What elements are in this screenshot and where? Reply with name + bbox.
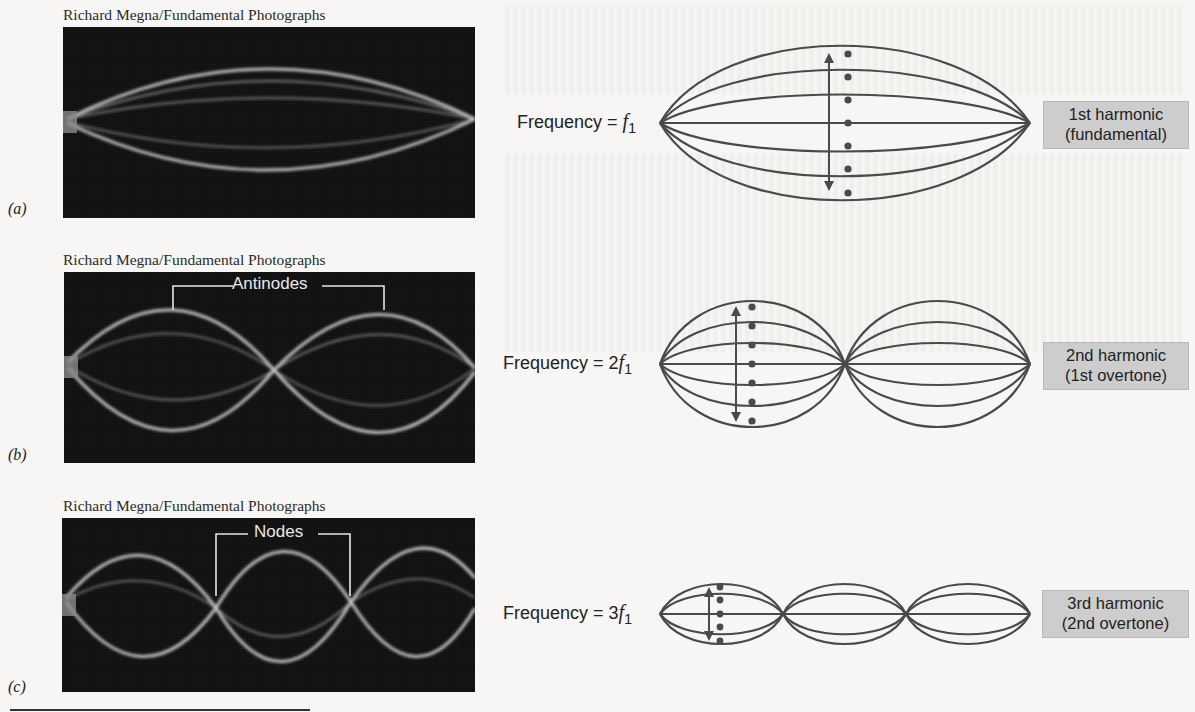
diagram-third-harmonic (660, 584, 1030, 644)
standing-wave-diagrams (0, 0, 1195, 712)
footnote-rule (10, 709, 310, 711)
diagram-second-harmonic (660, 301, 1030, 427)
diagram-1-dots (844, 50, 851, 196)
